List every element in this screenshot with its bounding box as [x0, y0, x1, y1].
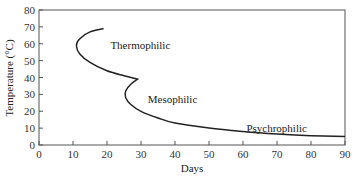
- axis-ticks: 010203040506070809001020304050607080: [24, 4, 351, 160]
- x-tick-label: 20: [102, 148, 114, 160]
- x-axis-title: Days: [181, 162, 204, 174]
- y-tick-label: 60: [24, 38, 36, 50]
- annotation-label: Psychrophilic: [246, 122, 307, 134]
- y-tick-label: 20: [24, 105, 36, 117]
- x-tick-label: 0: [36, 148, 42, 160]
- x-tick-label: 90: [340, 148, 352, 160]
- y-axis-title: Temperature (°C): [3, 39, 16, 117]
- x-tick-label: 80: [306, 148, 318, 160]
- chart: 010203040506070809001020304050607080 The…: [0, 0, 354, 177]
- x-tick-label: 30: [136, 148, 148, 160]
- annotations: ThermophilicMesophilicPsychrophilic: [110, 39, 307, 134]
- y-tick-label: 40: [24, 72, 36, 84]
- x-tick-label: 10: [68, 148, 80, 160]
- y-tick-label: 30: [24, 88, 36, 100]
- y-tick-label: 80: [24, 4, 36, 16]
- annotation-label: Mesophilic: [148, 93, 198, 105]
- x-tick-label: 40: [170, 148, 182, 160]
- x-tick-label: 60: [238, 148, 250, 160]
- annotation-label: Thermophilic: [110, 39, 170, 51]
- x-tick-label: 70: [272, 148, 284, 160]
- x-tick-label: 50: [204, 148, 216, 160]
- y-tick-label: 10: [24, 122, 36, 134]
- y-tick-label: 0: [30, 139, 36, 151]
- y-tick-label: 50: [24, 55, 36, 67]
- y-tick-label: 70: [24, 21, 36, 33]
